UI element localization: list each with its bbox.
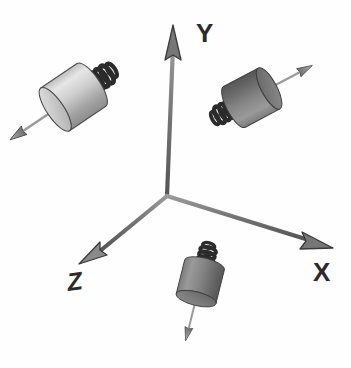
y-axis-sensor (201, 45, 323, 139)
z-axis-sensor-assembly (0, 48, 129, 162)
coordinate-axes (79, 25, 333, 264)
axis-label-x: X (313, 257, 331, 287)
axis-label-z: Z (64, 266, 86, 296)
diagram-canvas: Y X Z (0, 0, 351, 368)
axis-z (79, 196, 167, 264)
z-axis-sensor (0, 48, 129, 162)
three-axis-sensor-diagram: Y X Z (0, 0, 351, 368)
axis-y-arrowhead (165, 25, 181, 60)
axis-y (165, 25, 181, 196)
x-axis-sensor (166, 238, 230, 346)
x-axis-sensor-assembly (166, 238, 230, 346)
axis-x (167, 196, 333, 249)
y-axis-sensor-assembly (201, 45, 323, 139)
axis-z-shaft (100, 196, 167, 251)
axis-y-shaft (167, 46, 173, 196)
axis-label-y: Y (196, 18, 213, 48)
axis-x-shaft (167, 196, 312, 241)
axis-z-arrowhead (79, 242, 107, 264)
